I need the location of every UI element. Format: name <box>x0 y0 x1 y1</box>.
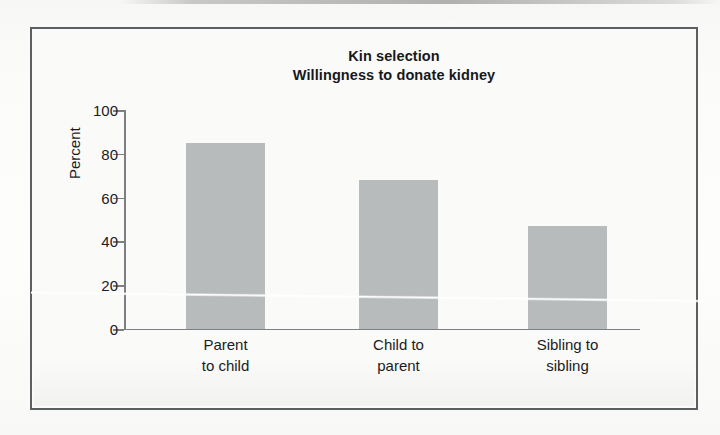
category-label-line: sibling <box>500 355 635 376</box>
y-tick-label: 80 <box>101 145 118 162</box>
category-label-line: parent <box>331 355 466 376</box>
y-tick-label: 40 <box>101 233 118 250</box>
y-tick-label: 100 <box>93 102 118 119</box>
bar-3 <box>528 226 607 329</box>
bar-1 <box>186 143 265 329</box>
category-label-3: Sibling tosibling <box>500 334 635 376</box>
y-tick-label: 60 <box>101 189 118 206</box>
chart-title-line-2: Willingness to donate kidney <box>92 66 696 85</box>
bar-2 <box>359 180 438 329</box>
figure-inner: Kin selection Willingness to donate kidn… <box>32 29 696 408</box>
chart-screenshot: Kin selection Willingness to donate kidn… <box>0 0 720 435</box>
category-label-1: Parentto child <box>158 334 293 376</box>
y-axis-title: Percent <box>66 127 83 179</box>
category-label-line: Sibling to <box>500 334 635 355</box>
category-label-line: Child to <box>331 334 466 355</box>
y-axis-line <box>124 110 126 329</box>
page-top-edge-smudge <box>120 0 720 4</box>
y-tick-label: 20 <box>101 277 118 294</box>
chart-title-line-1: Kin selection <box>92 47 696 66</box>
y-tick-label: 0 <box>110 321 118 338</box>
figure-frame: Kin selection Willingness to donate kidn… <box>30 27 698 410</box>
category-label-line: Parent <box>158 334 293 355</box>
plot-area: 020406080100 Parentto childChild toparen… <box>124 110 654 329</box>
chart-title: Kin selection Willingness to donate kidn… <box>32 47 696 85</box>
category-label-2: Child toparent <box>331 334 466 376</box>
category-label-line: to child <box>158 355 293 376</box>
